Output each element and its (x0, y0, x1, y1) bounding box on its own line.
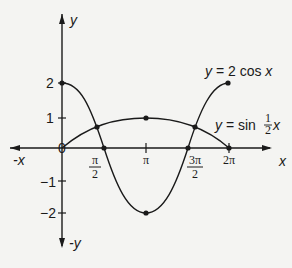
svg-text:2: 2 (265, 123, 271, 137)
x-axis-label: x (278, 153, 287, 169)
y-tick-label-2: 2 (46, 75, 54, 91)
x-tick-label-2pi: 2π (223, 153, 235, 167)
neg-y-arrow-icon (59, 238, 65, 248)
x-tick-label-pi: π (143, 153, 149, 167)
svg-text:y = sin: y = sin (214, 117, 256, 133)
y-axis-label: y (69, 12, 78, 28)
svg-text:π: π (92, 153, 98, 167)
sin-series-label: y = sin 1 2 x (214, 111, 281, 137)
svg-text:2: 2 (192, 167, 198, 181)
y-tick-label-1: 1 (46, 110, 54, 126)
y-tick-label-neg1: −1 (40, 174, 56, 190)
neg-x-axis-label: -x (13, 152, 26, 168)
x-tick-label-3pi-over-2: 3π 2 (187, 153, 203, 181)
svg-text:2: 2 (92, 167, 98, 181)
y-tick-label-neg2: −2 (40, 205, 56, 221)
svg-text:y = 2 cos x: y = 2 cos x (204, 63, 273, 79)
pos-y-arrow-icon (59, 14, 65, 24)
svg-text:3π: 3π (189, 153, 201, 167)
neg-y-axis-label: -y (69, 235, 82, 251)
pos-x-arrow-icon (262, 145, 272, 151)
neg-x-arrow-icon (10, 145, 20, 151)
x-tick-label-pi-over-2: π 2 (89, 153, 101, 181)
chart-canvas: y x -x -y 0 2 1 −1 −2 π 2 π 3π 2 2π y = … (0, 0, 292, 268)
cos-series-label: y = 2 cos x (204, 63, 273, 79)
svg-text:x: x (272, 117, 281, 133)
